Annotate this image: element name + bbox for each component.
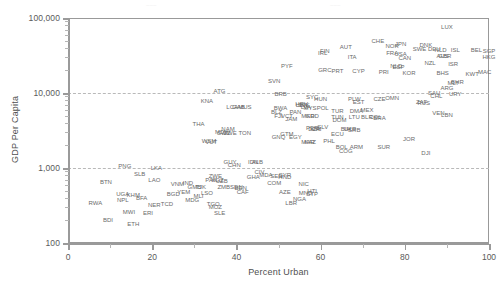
data-point-label: ZWE (223, 130, 236, 136)
data-point-label: KWT (465, 71, 478, 77)
data-point-label: HUN (314, 96, 327, 102)
data-point-label: NIC (299, 181, 309, 187)
data-point-label: EST (353, 99, 365, 105)
y-tick-minor (65, 180, 69, 181)
x-tick-label: 40 (216, 252, 256, 262)
data-point-label: GHA (247, 174, 260, 180)
data-point-label: ATG (214, 88, 226, 94)
data-point-label: MEX (360, 107, 373, 113)
data-point-label: NPL (117, 197, 129, 203)
data-point-label: STP (306, 191, 318, 197)
y-tick-minor (65, 100, 69, 101)
scatter-plot-chart: ~~~ ~~~ 1001,00010,000100,000 0204060801… (0, 0, 504, 289)
data-point-label: VUT (205, 139, 217, 145)
data-point-label: JAM (285, 116, 297, 122)
x-tick-major (321, 244, 323, 250)
data-point-label: MDG (185, 197, 199, 203)
y-tick-minor (65, 48, 69, 49)
y-tick-minor (65, 145, 69, 146)
y-tick-minor (65, 21, 69, 22)
data-point-label: ALB (252, 159, 263, 165)
data-point-label: EGY (289, 134, 302, 140)
data-point-label: SUR (377, 144, 390, 150)
data-point-label: ZMB (217, 184, 230, 190)
data-point-label: LBR (285, 200, 297, 206)
data-point-label: SLE (214, 210, 225, 216)
data-point-label: NOR (385, 43, 398, 49)
y-tick-label: 100 (8, 238, 60, 248)
y-tick-minor (65, 96, 69, 97)
x-axis-title: Percent Urban (48, 267, 504, 277)
data-point-label: IRL (318, 50, 327, 56)
y-tick-minor (65, 25, 69, 26)
data-point-label: CRI (311, 126, 321, 132)
data-point-label: SRB (348, 127, 360, 133)
data-point-label: LKA (151, 165, 162, 171)
y-tick-major (63, 93, 69, 95)
data-point-label: CHL (430, 93, 442, 99)
x-tick-label: 60 (301, 252, 341, 262)
data-point-label: CAF (237, 189, 249, 195)
data-point-label: KOR (402, 70, 415, 76)
data-point-label: ISR (448, 61, 458, 67)
data-point-label: PYF (281, 63, 293, 69)
data-point-label: LAO (148, 177, 160, 183)
data-point-label: MAC (478, 69, 491, 75)
data-point-label: BTN (100, 179, 112, 185)
data-point-label: BEL (471, 47, 482, 53)
data-point-label: RWA (89, 200, 103, 206)
data-point-label: MWI (123, 209, 135, 215)
data-point-label: THA (193, 121, 205, 127)
data-point-label: CHN (228, 162, 241, 168)
data-point-label: CZE (374, 96, 386, 102)
data-point-label: POL (317, 105, 329, 111)
data-point-label: PNG (118, 163, 131, 169)
data-point-label: KNA (201, 98, 213, 104)
data-point-label: VNM (171, 181, 184, 187)
data-point-label: URY (449, 91, 462, 97)
data-point-label: KAZ (304, 139, 316, 145)
data-point-label: COM (267, 180, 281, 186)
x-tick-major (405, 244, 407, 250)
plot-area: 1001,00010,000100,000 020406080100 LUXCH… (0, 0, 504, 289)
data-point-label: BGD (167, 191, 180, 197)
data-point-label: TCD (161, 201, 173, 207)
data-point-label: NZL (424, 60, 435, 66)
y-tick-major (63, 18, 69, 20)
data-point-label: NLD (435, 47, 447, 53)
data-point-label: ISL (451, 47, 460, 53)
data-point-label: LUX (441, 24, 453, 30)
y-tick-minor (65, 41, 69, 42)
data-point-label: ESP (392, 64, 404, 70)
x-tick-major (489, 244, 491, 250)
y-tick-minor (65, 70, 69, 71)
data-point-label: ERI (143, 210, 153, 216)
y-tick-minor (65, 132, 69, 133)
data-point-label: BDI (103, 217, 113, 223)
data-point-label: LCA (226, 104, 238, 110)
data-point-label: TUR (331, 108, 343, 114)
y-tick-minor (65, 191, 69, 192)
data-point-label: RUS (417, 100, 430, 106)
data-point-label: LSO (201, 190, 213, 196)
data-point-label: PRT (331, 68, 343, 74)
y-tick-major (63, 168, 69, 170)
data-point-label: CYP (352, 68, 364, 74)
y-tick-minor (65, 105, 69, 106)
data-point-label: DJI (421, 150, 430, 156)
data-point-label: SLB (134, 171, 145, 177)
data-point-label: NER (148, 202, 161, 208)
data-point-label: MYS (304, 105, 317, 111)
y-tick-minor (65, 220, 69, 221)
data-point-label: LBN (441, 112, 453, 118)
y-tick-minor (65, 171, 69, 172)
x-tick-minor (110, 244, 111, 248)
y-axis-title: GDP Per Capita (10, 95, 20, 162)
y-tick-minor (65, 35, 69, 36)
y-tick-minor (65, 185, 69, 186)
y-tick-minor (65, 57, 69, 58)
x-tick-label: 0 (48, 252, 88, 262)
y-tick-minor (65, 110, 69, 111)
data-point-label: TON (239, 130, 252, 136)
data-point-label: PHL (323, 138, 335, 144)
